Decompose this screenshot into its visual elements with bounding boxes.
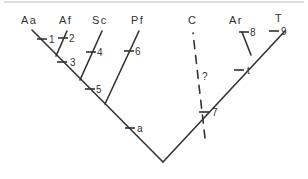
taxon-label-af: Af: [59, 14, 72, 26]
character-ticks: [37, 31, 279, 128]
taxon-label-aa: Aa: [21, 14, 37, 26]
right-main-branch: [163, 31, 285, 162]
char-label-8: 8: [250, 27, 256, 38]
branches: [32, 30, 285, 162]
taxon-label-ar: Ar: [229, 14, 243, 26]
char-label-t: t: [247, 65, 250, 76]
cladogram: Aa Af Sc Pf C Ar T 1 2 3 4 5 6 a 7 t 8 9…: [0, 0, 308, 179]
taxon-labels: Aa Af Sc Pf C Ar T: [21, 12, 283, 26]
taxon-label-pf: Pf: [131, 14, 144, 26]
taxon-label-t: T: [275, 12, 283, 24]
char-label-6: 6: [135, 46, 141, 57]
branch-af: [56, 31, 67, 56]
char-label-a: a: [137, 123, 143, 134]
uncertain-label: ?: [202, 71, 208, 82]
char-label-9: 9: [281, 26, 287, 37]
char-label-5: 5: [96, 84, 102, 95]
char-label-3: 3: [70, 57, 76, 68]
branch-pf: [105, 31, 139, 104]
taxon-label-sc: Sc: [92, 14, 108, 26]
taxon-label-c: C: [188, 14, 197, 26]
char-label-7: 7: [212, 107, 218, 118]
char-label-2: 2: [69, 33, 75, 44]
char-label-1: 1: [49, 34, 55, 45]
character-labels: 1 2 3 4 5 6 a 7 t 8 9 ?: [49, 26, 287, 134]
char-label-4: 4: [97, 47, 103, 58]
